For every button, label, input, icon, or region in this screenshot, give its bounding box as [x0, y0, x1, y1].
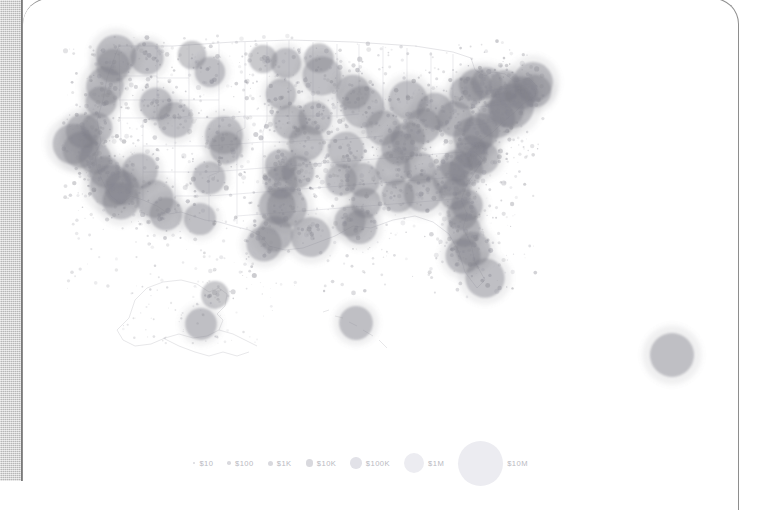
value-bubbles[interactable]: SeattleTacomaSpokanePortlandEugeneBoiseB…	[45, 28, 701, 385]
micro-bubble	[226, 329, 229, 332]
micro-bubble	[342, 143, 343, 144]
micro-bubble	[215, 270, 216, 271]
micro-bubble	[273, 204, 275, 206]
micro-bubble	[362, 251, 364, 253]
micro-bubble	[199, 100, 202, 103]
map-bubble[interactable]: Albuquerque	[193, 162, 226, 195]
micro-bubble	[494, 289, 499, 294]
micro-bubble	[219, 145, 220, 146]
micro-bubble	[354, 206, 355, 207]
micro-bubble	[211, 82, 212, 83]
legend-item-100[interactable]: $100	[227, 459, 253, 468]
micro-bubble	[356, 248, 357, 249]
micro-bubble	[372, 263, 374, 265]
map-bubble[interactable]: Anchorage	[185, 308, 217, 340]
micro-bubble	[495, 39, 499, 43]
micro-bubble	[422, 148, 424, 150]
micro-bubble	[153, 111, 155, 113]
map-bubble[interactable]: Sioux Falls	[266, 79, 297, 110]
micro-bubble	[79, 175, 82, 178]
micro-bubble	[114, 36, 116, 38]
us-bubble-map[interactable]: SeattleTacomaSpokanePortlandEugeneBoiseB…	[23, 0, 739, 445]
legend-item-10k[interactable]: $10K	[306, 459, 337, 468]
micro-bubble	[443, 89, 445, 91]
legend-item-1m[interactable]: $1M	[404, 453, 444, 473]
micro-bubble	[135, 189, 138, 192]
micro-bubble	[199, 95, 201, 97]
legend-item-100k[interactable]: $100K	[350, 457, 390, 469]
micro-bubble	[308, 230, 312, 234]
micro-bubble	[269, 76, 270, 77]
micro-bubble	[440, 251, 441, 252]
micro-bubble	[483, 209, 486, 212]
micro-bubble	[313, 162, 318, 167]
micro-bubble	[529, 94, 532, 97]
micro-bubble	[150, 102, 154, 106]
micro-bubble	[138, 58, 140, 60]
micro-bubble	[395, 214, 396, 215]
micro-bubble	[207, 295, 210, 298]
micro-bubble	[427, 83, 430, 86]
micro-bubble	[503, 84, 508, 89]
legend-item-10m[interactable]: $10M	[458, 441, 528, 486]
micro-bubble	[148, 182, 151, 185]
micro-bubble	[275, 155, 280, 160]
micro-bubble	[332, 173, 334, 175]
micro-bubble	[193, 215, 196, 218]
legend-item-10[interactable]: $10	[193, 459, 213, 468]
micro-bubble	[458, 121, 460, 123]
micro-bubble	[75, 104, 78, 107]
micro-bubble	[475, 216, 476, 217]
micro-bubble	[466, 212, 468, 214]
micro-bubble	[435, 77, 438, 80]
map-stage[interactable]: SeattleTacomaSpokanePortlandEugeneBoiseB…	[23, 0, 739, 445]
micro-bubble	[274, 97, 278, 101]
legend-label: $1K	[277, 459, 292, 468]
micro-bubble	[121, 179, 124, 182]
micro-bubble	[290, 180, 291, 181]
micro-bubble	[179, 321, 180, 322]
map-bubble[interactable]: Reno	[81, 112, 112, 143]
micro-bubble	[171, 46, 174, 49]
micro-bubble	[444, 187, 447, 190]
micro-bubble	[471, 144, 472, 145]
micro-bubble	[171, 169, 173, 171]
micro-bubble	[426, 104, 428, 106]
micro-bubble	[244, 52, 248, 56]
legend-item-1k[interactable]: $1K	[268, 459, 292, 468]
micro-bubble	[105, 217, 109, 221]
micro-bubble	[278, 120, 280, 122]
map-bubble[interactable]: Fargo	[271, 48, 301, 78]
map-bubble[interactable]: Tucson	[150, 198, 183, 231]
micro-bubble	[256, 338, 258, 340]
micro-bubble	[67, 197, 68, 198]
micro-bubble	[480, 135, 482, 137]
micro-bubble	[360, 208, 364, 212]
micro-bubble	[395, 115, 397, 117]
micro-bubble	[471, 182, 476, 187]
micro-bubble	[297, 227, 300, 230]
legend-swatch-circle	[404, 453, 424, 473]
map-bubble[interactable]: Honolulu	[339, 306, 373, 340]
map-bubble[interactable]: Colorado Sprgs	[210, 132, 243, 165]
micro-bubble	[410, 140, 415, 145]
micro-bubble	[160, 217, 164, 221]
micro-bubble	[362, 270, 365, 273]
micro-bubble	[288, 101, 292, 105]
micro-bubble	[165, 143, 167, 145]
micro-bubble	[250, 88, 251, 89]
micro-bubble	[314, 194, 318, 198]
micro-bubble	[291, 36, 294, 39]
micro-bubble	[297, 206, 299, 208]
micro-bubble	[128, 203, 130, 205]
micro-bubble	[319, 142, 321, 144]
micro-bubble	[95, 111, 98, 114]
micro-bubble	[472, 143, 473, 144]
micro-bubble	[117, 53, 119, 55]
micro-bubble	[419, 104, 422, 107]
micro-bubble	[75, 113, 79, 117]
map-bubble[interactable]: El Paso	[184, 203, 216, 235]
map-bubble[interactable]: Offshore/PR	[650, 333, 694, 377]
micro-bubble	[345, 178, 349, 182]
micro-bubble	[473, 196, 477, 200]
